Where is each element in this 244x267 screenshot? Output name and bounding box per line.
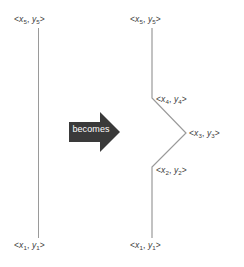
comma: , <box>143 240 145 250</box>
becomes-arrow: becomes <box>69 111 121 153</box>
comma: , <box>202 128 204 138</box>
subscript: 3 <box>198 132 202 139</box>
angle-close-icon: > <box>156 14 161 24</box>
subscript: 2 <box>178 169 182 176</box>
label-right-x5: <x5, y5> <box>130 15 161 24</box>
comma: , <box>27 240 29 250</box>
label-right-x4: <x4, y4> <box>156 95 187 104</box>
angle-close-icon: > <box>182 94 187 104</box>
subdivided-polyline <box>152 28 186 238</box>
subscript: 5 <box>152 18 156 25</box>
subscript: 1 <box>139 244 143 251</box>
label-right-x3: <x3, y3> <box>189 129 220 138</box>
angle-close-icon: > <box>40 240 45 250</box>
comma: , <box>143 14 145 24</box>
angle-close-icon: > <box>156 240 161 250</box>
comma: , <box>169 94 171 104</box>
subscript: 4 <box>165 98 169 105</box>
subscript: 5 <box>139 18 143 25</box>
subscript: 1 <box>152 244 156 251</box>
angle-close-icon: > <box>215 128 220 138</box>
comma: , <box>27 14 29 24</box>
subscript: 1 <box>36 244 40 251</box>
subscript: 3 <box>211 132 215 139</box>
label-right-x2: <x2, y2> <box>156 166 187 175</box>
subscript: 4 <box>178 98 182 105</box>
label-left-x5: <x5, y5> <box>14 15 45 24</box>
label-right-x1: <x1, y1> <box>130 241 161 250</box>
arrow-shape-icon <box>69 111 121 153</box>
subscript: 2 <box>165 169 169 176</box>
comma: , <box>169 165 171 175</box>
angle-close-icon: > <box>182 165 187 175</box>
angle-close-icon: > <box>40 14 45 24</box>
subscript: 5 <box>36 18 40 25</box>
label-left-x1: <x1, y1> <box>14 241 45 250</box>
subscript: 5 <box>23 18 27 25</box>
subscript: 1 <box>23 244 27 251</box>
